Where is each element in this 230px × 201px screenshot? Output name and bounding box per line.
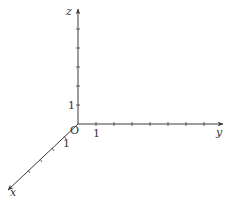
x-axis	[8, 124, 78, 190]
y-axis-label: y	[215, 126, 223, 139]
origin-label: O	[70, 124, 79, 137]
z-axis	[76, 9, 80, 124]
z-unit-label: 1	[68, 99, 75, 112]
z-axis-label: z	[65, 5, 72, 18]
y-axis	[78, 122, 223, 126]
x-axis-label: x	[10, 186, 17, 199]
coordinate-axes-diagram: z 1 O 1 y 1 x	[0, 0, 230, 201]
x-unit-label: 1	[63, 137, 70, 150]
y-unit-label: 1	[93, 127, 100, 140]
